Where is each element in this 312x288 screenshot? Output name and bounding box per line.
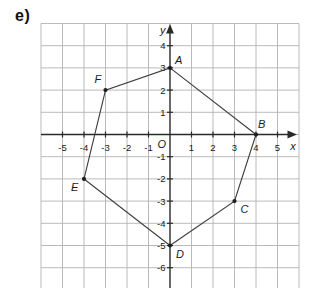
- x-tick-label: 3: [232, 142, 237, 153]
- x-tick-label: 1: [189, 142, 194, 153]
- vertex-point-A: [168, 66, 172, 70]
- coordinate-plane: -5-4-3-2-1123454321-1-2-3-4-5-6OxyABCDEF: [0, 0, 312, 288]
- y-tick-label: 3: [160, 62, 165, 73]
- vertex-label-B: B: [258, 118, 265, 130]
- x-tick-label: 4: [253, 142, 258, 153]
- y-tick-label: 2: [160, 85, 165, 96]
- x-axis-arrow-icon: [288, 131, 298, 139]
- vertex-label-F: F: [95, 73, 103, 85]
- vertex-label-D: D: [176, 248, 184, 260]
- y-tick-label: -1: [157, 151, 165, 162]
- worksheet-figure: e) -5-4-3-2-1123454321-1-2-3-4-5-6OxyABC…: [0, 0, 312, 288]
- vertex-point-F: [103, 88, 107, 92]
- x-tick-label: -2: [123, 142, 131, 153]
- y-tick-label: -6: [157, 262, 165, 273]
- vertex-point-E: [82, 177, 86, 181]
- x-tick-label: 5: [275, 142, 280, 153]
- x-axis-label: x: [289, 140, 296, 152]
- vertex-label-C: C: [241, 203, 249, 215]
- y-axis-label: y: [159, 24, 167, 36]
- y-tick-label: -3: [157, 196, 165, 207]
- vertex-point-C: [232, 199, 236, 203]
- y-tick-label: -4: [157, 218, 165, 229]
- origin-label: O: [157, 138, 166, 150]
- y-tick-label: 4: [160, 40, 165, 51]
- vertex-label-E: E: [71, 181, 79, 193]
- vertex-point-D: [168, 243, 172, 247]
- vertex-point-B: [254, 132, 258, 136]
- y-tick-label: 1: [160, 107, 165, 118]
- x-tick-label: 2: [210, 142, 215, 153]
- x-tick-label: -4: [80, 142, 88, 153]
- x-tick-label: -1: [144, 142, 152, 153]
- vertex-label-A: A: [174, 54, 182, 66]
- y-tick-label: -2: [157, 173, 165, 184]
- x-tick-label: -5: [58, 142, 66, 153]
- x-tick-label: -3: [101, 142, 109, 153]
- y-axis-arrow-icon: [166, 24, 174, 34]
